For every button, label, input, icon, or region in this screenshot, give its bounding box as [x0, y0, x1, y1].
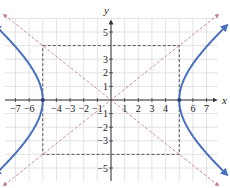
x-tick-label: 4	[163, 103, 168, 114]
y-tick-label: 2	[103, 67, 108, 78]
hyperbola-chart: −7−6−4−3−2−11234675321−1−2−3−5 x y	[0, 0, 230, 188]
x-tick-label: −7	[10, 103, 21, 114]
x-tick-label: −2	[78, 103, 89, 114]
x-tick-label: 6	[190, 103, 195, 114]
y-tick-label: −3	[97, 135, 108, 146]
x-tick-label: −6	[24, 103, 35, 114]
y-tick-label: −1	[97, 108, 108, 119]
x-tick-label: 1	[122, 103, 127, 114]
y-tick-label: 3	[103, 54, 108, 65]
y-tick-label: −5	[97, 163, 108, 174]
x-tick-label: 2	[136, 103, 141, 114]
y-tick-label: 1	[103, 81, 108, 92]
x-tick-label: 7	[204, 103, 209, 114]
y-tick-label: −2	[97, 122, 108, 133]
x-tick-label: −3	[65, 103, 76, 114]
y-axis-label: y	[103, 4, 109, 16]
x-tick-label: −4	[51, 103, 62, 114]
x-tick-label: 3	[149, 103, 154, 114]
x-axis-label: x	[221, 94, 227, 106]
y-tick-label: 5	[103, 27, 108, 38]
